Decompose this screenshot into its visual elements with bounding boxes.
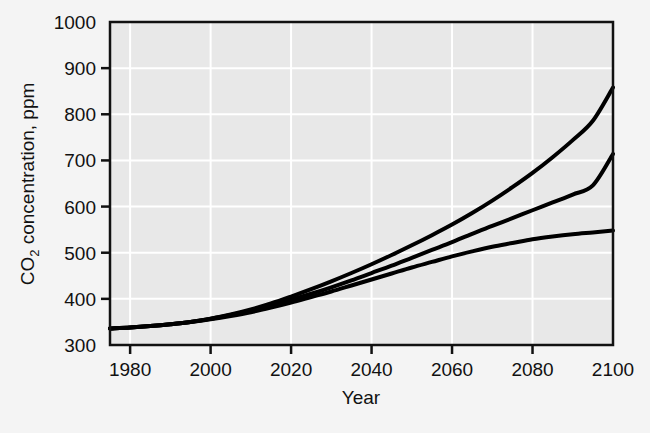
ytick-label: 300 — [64, 335, 96, 356]
ytick-label: 500 — [64, 243, 96, 264]
xtick-label: 2020 — [270, 359, 312, 380]
ytick-label: 900 — [64, 58, 96, 79]
ytick-label: 1000 — [54, 12, 96, 33]
plot-area-background — [110, 22, 613, 345]
ytick-label: 400 — [64, 289, 96, 310]
co2-concentration-line-chart: 3004005006007008009001000 19802000202020… — [0, 0, 650, 433]
xtick-label: 2100 — [592, 359, 634, 380]
xtick-label: 2080 — [511, 359, 553, 380]
xtick-label: 2060 — [431, 359, 473, 380]
xtick-label: 2040 — [350, 359, 392, 380]
x-axis-title: Year — [342, 387, 381, 408]
y-axis-title-main: CO — [17, 257, 38, 286]
y-axis-title-subscript: 2 — [27, 250, 42, 257]
y-axis-title-rest: concentration, ppm — [17, 83, 38, 250]
ytick-label: 800 — [64, 104, 96, 125]
chart-figure: 3004005006007008009001000 19802000202020… — [0, 0, 650, 433]
ytick-label: 600 — [64, 197, 96, 218]
xtick-label: 1980 — [109, 359, 151, 380]
ytick-label: 700 — [64, 150, 96, 171]
xtick-label: 2000 — [189, 359, 231, 380]
